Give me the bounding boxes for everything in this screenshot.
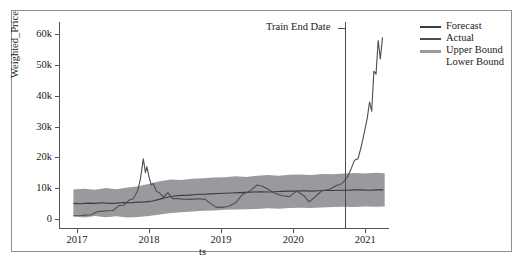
legend-label: Upper Bound [446,44,503,56]
train-end-tick [338,28,346,29]
legend-label: Actual [446,32,474,44]
legend-swatch [420,50,441,53]
legend-swatch [420,26,441,28]
legend-label: Lower Bound [446,56,504,68]
legend-item-actual[interactable]: Actual [420,32,506,44]
legend-item-forecast[interactable]: Forecast [420,20,506,32]
confidence-band-area [73,173,384,218]
train-end-label: Train End Date [266,21,330,32]
train-end-vline [345,22,346,229]
legend: ForecastActualUpper BoundLower Bound [420,20,506,68]
legend-item-upper-bound[interactable]: Upper Bound [420,44,506,56]
confidence-band [73,173,384,218]
figure: 010k20k30k40k50k60k 20172018201920202021… [0,0,524,270]
legend-label: Forecast [446,20,482,32]
legend-item-lower-bound[interactable]: Lower Bound [420,56,506,68]
legend-swatch [420,38,441,40]
